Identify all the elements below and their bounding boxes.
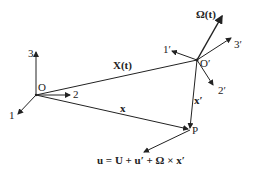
xp-label: x′ bbox=[194, 95, 203, 106]
omega-label: Ω(t) bbox=[196, 9, 216, 20]
axis-1p-label: 1′ bbox=[163, 44, 171, 55]
axis-1-label: 1 bbox=[9, 110, 15, 121]
axis-1-arrow bbox=[18, 95, 36, 114]
omega-arrow bbox=[197, 16, 222, 60]
axis-2p-label: 2′ bbox=[218, 85, 226, 96]
X-label: X(t) bbox=[113, 60, 132, 71]
u-arrow bbox=[144, 130, 190, 152]
velocity-equation: u = U + u′ + Ω × x′ bbox=[97, 155, 185, 166]
origin-p-label: O′ bbox=[200, 58, 210, 69]
P-label: P bbox=[192, 125, 198, 136]
x-vector bbox=[36, 95, 188, 129]
origin-label: O bbox=[38, 82, 46, 93]
axis-2-label: 2 bbox=[73, 89, 79, 100]
axis-3p-label: 3′ bbox=[234, 39, 242, 50]
axis-1p-arrow bbox=[172, 51, 197, 60]
axis-3-label: 3 bbox=[28, 48, 34, 59]
x-label: x bbox=[120, 103, 126, 114]
